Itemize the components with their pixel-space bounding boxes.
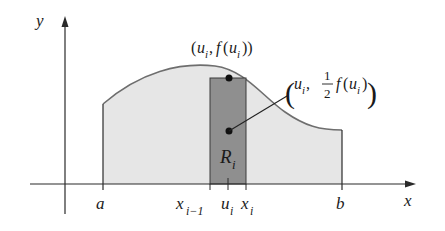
svg-text:u: u [349,75,357,92]
svg-text:,: , [209,39,213,56]
svg-text:f: f [216,39,223,57]
svg-text:u: u [229,39,237,56]
x-axis-label: x [403,191,412,210]
svg-text:(: ( [223,39,228,57]
svg-text:i: i [230,204,233,218]
svg-text:,: , [306,75,310,92]
svg-text:(: ( [343,75,348,93]
svg-text:1: 1 [324,68,331,83]
annotation-mid-point: ( u i , 1 2 f ( u i ) ) [285,68,377,110]
svg-text:x: x [240,194,249,213]
svg-text:2: 2 [324,86,331,101]
svg-text:R: R [219,146,232,167]
tick-label-b: b [336,194,345,213]
svg-text:(: ( [191,39,196,57]
svg-text:u: u [294,75,302,92]
svg-text:f: f [336,75,343,93]
riemann-rectangle-diagram: y x a b x i−1 u i x i R i ( u i , f ( u … [0,0,445,231]
svg-text:i: i [357,84,360,96]
tick-label-x-i: x i [240,194,253,218]
point-top [226,75,233,82]
tick-label-u: u i [221,194,233,218]
svg-text:i: i [237,48,240,60]
svg-text:i: i [250,204,253,218]
svg-text:i: i [232,157,236,172]
y-axis-label: y [34,11,44,30]
svg-text:i−1: i−1 [186,204,203,218]
svg-text:): ) [367,76,377,110]
tick-label-a: a [96,194,105,213]
tick-label-x-prev: x i−1 [175,194,203,218]
y-axis-arrow-icon [62,16,69,27]
svg-text:)): )) [242,39,253,57]
x-axis-arrow-icon [405,181,416,188]
svg-text:i: i [205,48,208,60]
svg-text:i: i [302,84,305,96]
svg-text:x: x [175,194,184,213]
annotation-top-point: ( u i , f ( u i )) [191,39,253,60]
svg-text:u: u [197,39,205,56]
svg-text:u: u [221,194,230,213]
